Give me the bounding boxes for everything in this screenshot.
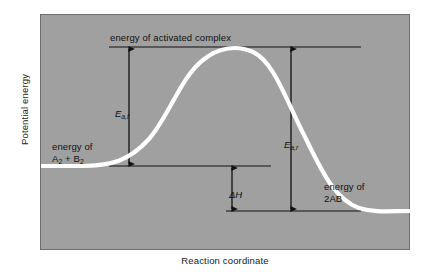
label-ea-forward: Ea,f — [115, 108, 129, 119]
energy-profile-figure: energy of activated complex energy of A2… — [0, 0, 425, 272]
label-delta-h: ΔH — [229, 189, 242, 200]
label-reactants-line1: energy of — [52, 141, 93, 152]
x-axis-title: Reaction coordinate — [40, 255, 410, 266]
subscript-a2: 2 — [58, 158, 62, 165]
plot-svg — [41, 15, 411, 251]
label-ea-reverse: Ea,r — [284, 139, 298, 150]
label-ea-forward-subscript: a,f — [121, 113, 129, 120]
label-reactants-energy: energy of A2 + B2 — [52, 141, 93, 165]
label-products-line1: energy of — [324, 181, 365, 192]
label-reactants-formula: A2 + B2 — [52, 153, 84, 164]
label-ea-reverse-subscript: a,r — [290, 144, 298, 151]
y-axis-title: Potential energy — [19, 40, 30, 180]
subscript-b2: 2 — [80, 158, 84, 165]
label-products-formula: 2AB — [324, 193, 342, 204]
label-products-energy: energy of 2AB — [324, 181, 365, 204]
plot-panel: energy of activated complex energy of A2… — [40, 14, 410, 250]
label-activated-complex: energy of activated complex — [110, 32, 231, 44]
